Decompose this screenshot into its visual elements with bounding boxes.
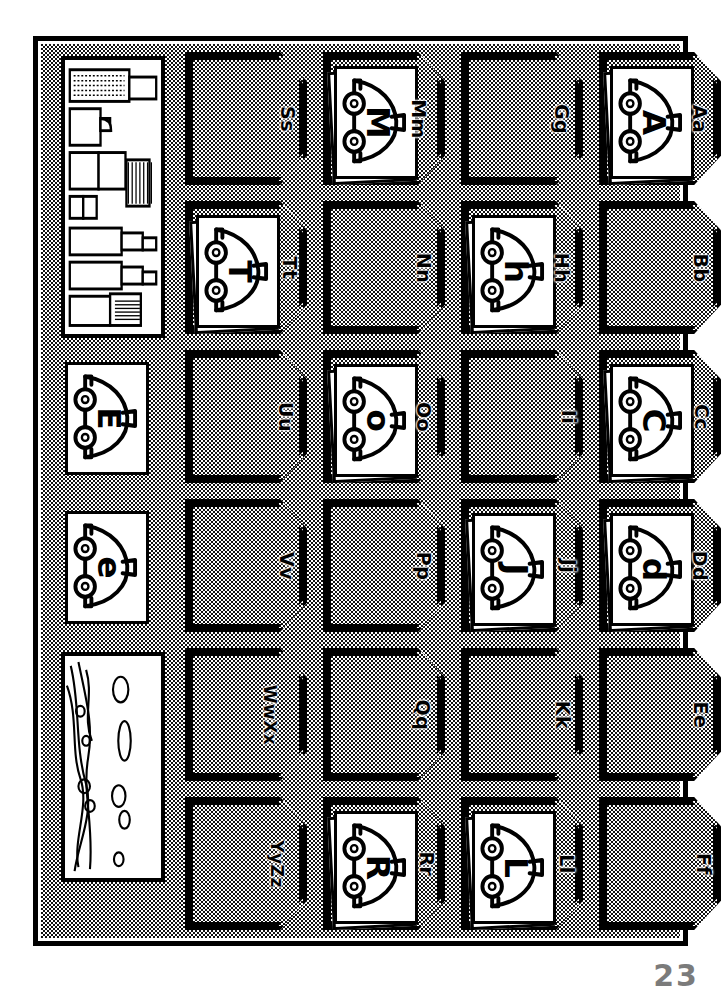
pocket-label: Tt (278, 256, 300, 279)
pocket-gg[interactable]: Gg (461, 52, 583, 185)
letter-card-o[interactable]: o (334, 364, 418, 477)
pocket-rr[interactable]: RRr (323, 797, 445, 930)
illustration-column: Ee (51, 44, 175, 938)
pocket-uu[interactable]: Uu (185, 350, 307, 483)
pocket-label: Ii (559, 409, 581, 424)
pocket-label: Dd (689, 550, 711, 580)
letter-column-2: GghHhIiJJjKkLLl (457, 44, 591, 938)
svg-text:M: M (359, 106, 396, 139)
pocket-oo[interactable]: oOo (323, 350, 445, 483)
pocket-wwxx[interactable]: WwXx (185, 648, 307, 781)
pocket-label: Bb (689, 253, 711, 282)
svg-text:d: d (635, 558, 672, 582)
page-canvas: EeAAaBbCCcdDdEeFfGghHhIiJJjKkLLlMMmNnoOo… (0, 0, 721, 987)
pocket-label: Ss (277, 106, 299, 132)
pocket-mm[interactable]: MMm (323, 52, 445, 185)
pocket-label: Nn (413, 252, 435, 282)
pocket-label: Ee (691, 701, 713, 728)
pocket-ss[interactable]: Ss (185, 52, 307, 185)
letter-card-h[interactable]: h (472, 215, 556, 328)
pocket-label: Jj (559, 558, 581, 573)
svg-text:e: e (90, 556, 127, 578)
svg-text:E: E (90, 407, 127, 429)
svg-text:C: C (635, 408, 672, 432)
pocket-jj[interactable]: JJj (461, 499, 583, 632)
pocket-label: Vv (276, 551, 298, 579)
letter-column-4: SsTTtUuVvWwXxYyZz (181, 44, 315, 938)
pocket-label: Gg (551, 103, 573, 133)
pocket-label: Ll (556, 854, 578, 874)
pocket-ll[interactable]: LLl (461, 797, 583, 930)
letter-card-J[interactable]: J (472, 513, 556, 626)
bookshelf-supplies-panel (61, 56, 165, 338)
letter-card-A[interactable]: A (610, 66, 694, 179)
pocket-label: Cc (691, 403, 713, 429)
page-number: 23 (653, 958, 699, 987)
pocket-tt[interactable]: TTt (185, 201, 307, 334)
pocket-ii[interactable]: Ii (461, 350, 583, 483)
pocket-border (189, 652, 303, 777)
svg-text:R: R (359, 855, 396, 881)
letter-card-e[interactable]: e (65, 511, 149, 624)
alphabet-pocket-chart: EeAAaBbCCcdDdEeFfGghHhIiJJjKkLLlMMmNnoOo… (33, 36, 688, 946)
pocket-nn[interactable]: Nn (323, 201, 445, 334)
svg-text:L: L (497, 857, 534, 878)
pocket-yyzz[interactable]: YyZz (185, 797, 307, 930)
pocket-label: Uu (275, 402, 297, 432)
pocket-label: Hh (551, 252, 573, 282)
pocket-label: Qq (413, 699, 435, 730)
pocket-pp[interactable]: Pp (323, 499, 445, 632)
pocket-aa[interactable]: AAa (599, 52, 721, 185)
svg-text:h: h (497, 260, 534, 283)
pocket-qq[interactable]: Qq (323, 648, 445, 781)
pocket-label: YyZz (267, 840, 287, 888)
pocket-label: Mm (408, 99, 430, 139)
pocket-vv[interactable]: Vv (185, 499, 307, 632)
letter-card-R[interactable]: R (334, 811, 418, 924)
letter-card-M[interactable]: M (334, 66, 418, 179)
pocket-ee[interactable]: Ee (599, 648, 721, 781)
pocket-label: Pp (414, 551, 436, 580)
letter-card-T[interactable]: T (196, 215, 280, 328)
pocket-cc[interactable]: CCc (599, 350, 721, 483)
letter-card-d[interactable]: d (610, 513, 694, 626)
pocket-dd[interactable]: dDd (599, 499, 721, 632)
svg-text:J: J (497, 561, 534, 575)
pocket-label: Rr (415, 851, 437, 876)
pocket-kk[interactable]: Kk (461, 648, 583, 781)
svg-text:o: o (359, 409, 396, 432)
pocket-label: Ff (693, 852, 715, 874)
pocket-label: Oo (413, 401, 435, 431)
letter-column-3: MMmNnoOoPpQqRRr (319, 44, 453, 938)
svg-text:T: T (221, 260, 258, 283)
pocket-label: Aa (690, 104, 712, 133)
letter-card-L[interactable]: L (472, 811, 556, 924)
letter-card-C[interactable]: C (610, 364, 694, 477)
pocket-grid: EeAAaBbCCcdDdEeFfGghHhIiJJjKkLLlMMmNnoOo… (41, 44, 680, 938)
pocket-label: Kk (552, 700, 574, 728)
pocket-bb[interactable]: Bb (599, 201, 721, 334)
landscape-trees-panel (61, 652, 165, 882)
letter-column-1: AAaBbCCcdDdEeFf (595, 44, 721, 938)
pocket-hh[interactable]: hHh (461, 201, 583, 334)
svg-text:A: A (635, 110, 672, 136)
pocket-ff[interactable]: Ff (599, 797, 721, 930)
letter-card-E[interactable]: E (65, 362, 149, 475)
pocket-label: WwXx (261, 684, 281, 745)
